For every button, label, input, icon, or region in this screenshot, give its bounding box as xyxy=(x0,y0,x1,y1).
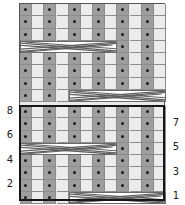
chart-row xyxy=(20,16,166,28)
purl-stitch-cell xyxy=(93,155,105,167)
purl-dot-icon xyxy=(24,184,27,187)
purl-dot-icon xyxy=(48,122,51,125)
row-number-label: 6 xyxy=(4,130,16,140)
purl-stitch-cell xyxy=(20,53,32,65)
knit-stitch-cell xyxy=(130,4,142,16)
knit-stitch-cell xyxy=(130,41,142,53)
purl-stitch-cell xyxy=(142,143,154,155)
purl-stitch-cell xyxy=(117,16,129,28)
purl-dot-icon xyxy=(73,69,76,72)
knit-stitch-cell xyxy=(154,78,166,90)
purl-dot-icon xyxy=(121,171,124,174)
knit-stitch-cell xyxy=(32,192,44,204)
row-number-label: 5 xyxy=(170,142,182,152)
purl-stitch-cell xyxy=(142,65,154,77)
knit-stitch-cell xyxy=(32,78,44,90)
purl-stitch-cell xyxy=(69,180,81,192)
knit-stitch-cell xyxy=(105,155,117,167)
knit-stitch-cell xyxy=(81,65,93,77)
purl-dot-icon xyxy=(48,8,51,11)
purl-stitch-cell xyxy=(44,78,56,90)
knit-stitch-cell xyxy=(32,65,44,77)
purl-stitch-cell xyxy=(142,53,154,65)
purl-stitch-cell xyxy=(20,192,32,204)
purl-dot-icon xyxy=(48,171,51,174)
knit-stitch-cell xyxy=(81,180,93,192)
purl-dot-icon xyxy=(24,82,27,85)
knit-stitch-cell xyxy=(130,180,142,192)
purl-stitch-cell xyxy=(44,90,56,102)
purl-dot-icon xyxy=(48,69,51,72)
purl-dot-icon xyxy=(146,122,149,125)
knit-stitch-cell xyxy=(130,167,142,179)
purl-stitch-cell xyxy=(93,106,105,118)
purl-dot-icon xyxy=(121,57,124,60)
purl-dot-icon xyxy=(48,135,51,138)
purl-stitch-cell xyxy=(69,167,81,179)
purl-dot-icon xyxy=(97,82,100,85)
knit-stitch-cell xyxy=(105,180,117,192)
purl-dot-icon xyxy=(146,147,149,150)
knit-stitch-cell xyxy=(105,106,117,118)
purl-stitch-cell xyxy=(142,4,154,16)
purl-dot-icon xyxy=(146,20,149,23)
purl-stitch-cell xyxy=(44,155,56,167)
purl-stitch-cell xyxy=(69,118,81,130)
knit-stitch-cell xyxy=(154,143,166,155)
purl-dot-icon xyxy=(146,69,149,72)
row-number-label: 4 xyxy=(4,155,16,165)
purl-stitch-cell xyxy=(117,29,129,41)
knit-stitch-cell xyxy=(57,167,69,179)
purl-dot-icon xyxy=(121,184,124,187)
knit-stitch-cell xyxy=(32,53,44,65)
purl-dot-icon xyxy=(97,57,100,60)
purl-dot-icon xyxy=(97,8,100,11)
chart-row xyxy=(20,180,166,192)
knit-stitch-cell xyxy=(154,106,166,118)
purl-stitch-cell xyxy=(20,65,32,77)
purl-stitch-cell xyxy=(93,29,105,41)
knit-stitch-cell xyxy=(81,106,93,118)
purl-dot-icon xyxy=(97,135,100,138)
knit-stitch-cell xyxy=(105,4,117,16)
purl-dot-icon xyxy=(146,45,149,48)
chart-row xyxy=(20,106,166,118)
purl-dot-icon xyxy=(97,159,100,162)
knit-stitch-cell xyxy=(130,131,142,143)
purl-dot-icon xyxy=(97,33,100,36)
row-number-label: 8 xyxy=(4,106,16,116)
purl-stitch-cell xyxy=(142,41,154,53)
purl-stitch-cell xyxy=(20,131,32,143)
knit-stitch-cell xyxy=(154,4,166,16)
purl-dot-icon xyxy=(73,135,76,138)
cable-cross-symbol xyxy=(69,90,166,102)
purl-stitch-cell xyxy=(93,167,105,179)
knit-stitch-cell xyxy=(81,53,93,65)
knit-stitch-cell xyxy=(57,155,69,167)
purl-dot-icon xyxy=(146,8,149,11)
purl-stitch-cell xyxy=(20,78,32,90)
knit-stitch-cell xyxy=(81,29,93,41)
purl-dot-icon xyxy=(121,20,124,23)
purl-stitch-cell xyxy=(117,155,129,167)
knit-stitch-cell xyxy=(32,4,44,16)
purl-dot-icon xyxy=(121,159,124,162)
knit-stitch-cell xyxy=(105,29,117,41)
purl-dot-icon xyxy=(24,110,27,113)
purl-stitch-cell xyxy=(69,29,81,41)
purl-stitch-cell xyxy=(44,53,56,65)
purl-stitch-cell xyxy=(93,53,105,65)
knit-stitch-cell xyxy=(32,16,44,28)
purl-stitch-cell xyxy=(20,118,32,130)
purl-stitch-cell xyxy=(117,78,129,90)
knit-stitch-cell xyxy=(154,118,166,130)
knit-stitch-cell xyxy=(81,4,93,16)
knit-stitch-cell xyxy=(105,53,117,65)
purl-stitch-cell xyxy=(69,65,81,77)
knit-stitch-cell xyxy=(81,167,93,179)
purl-dot-icon xyxy=(121,147,124,150)
purl-stitch-cell xyxy=(20,4,32,16)
purl-dot-icon xyxy=(48,20,51,23)
purl-dot-icon xyxy=(146,57,149,60)
knit-stitch-cell xyxy=(57,131,69,143)
